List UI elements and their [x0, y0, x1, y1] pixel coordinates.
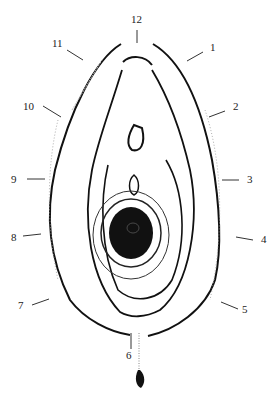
clock-label-10: 10: [23, 101, 34, 112]
clock-label-7: 7: [18, 300, 24, 311]
clock-label-5: 5: [242, 304, 248, 315]
clock-label-2: 2: [233, 101, 239, 112]
clock-label-3: 3: [247, 174, 253, 185]
clock-label-9: 9: [11, 174, 17, 185]
clock-label-4: 4: [261, 234, 267, 245]
clock-label-8: 8: [11, 232, 17, 243]
outer-contour: [49, 44, 219, 336]
clock-label-11: 11: [52, 38, 63, 49]
clock-label-12: 12: [131, 14, 142, 25]
lower-tail: [136, 333, 144, 388]
anatomical-sketch: [0, 0, 276, 398]
diagram-canvas: 12 1 2 3 4 5 6 7 8 9 10 11: [0, 0, 276, 398]
clock-label-6: 6: [126, 350, 132, 361]
clock-label-1: 1: [210, 42, 216, 53]
